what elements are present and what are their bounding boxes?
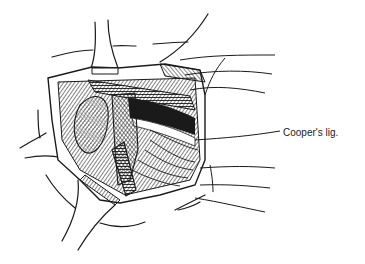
coopers-ligament-label: Cooper's lig. (283, 127, 338, 138)
anatomical-illustration: Cooper's lig. (0, 0, 365, 264)
